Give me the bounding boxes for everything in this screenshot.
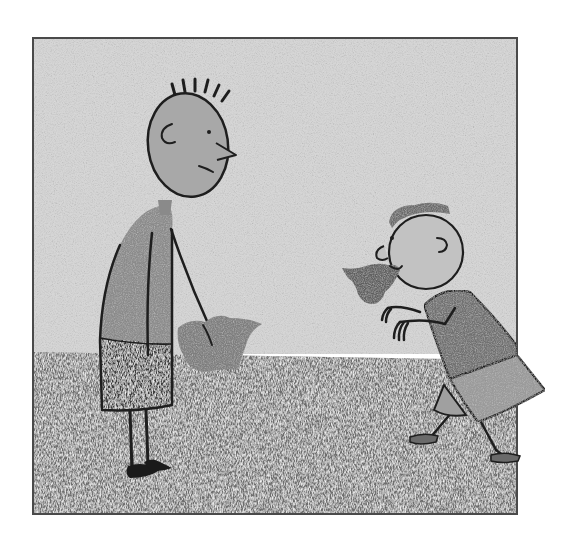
eye [390, 236, 394, 240]
shorts [100, 338, 172, 410]
eye [207, 130, 211, 134]
head [389, 215, 463, 289]
shoe [491, 453, 520, 462]
crayon-illustration [0, 0, 574, 549]
shoe [410, 434, 438, 444]
